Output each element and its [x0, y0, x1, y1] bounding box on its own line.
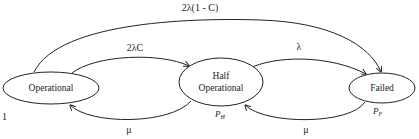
edge-failed-to-half [245, 102, 365, 120]
node-half-operational: Half Operational [179, 58, 263, 106]
edge-operational-to-half [72, 57, 189, 73]
edge-label-operational-failed: 2λ(1 - C) [182, 2, 219, 14]
prob-label-failed: PF [372, 106, 383, 117]
stray-mark: 1 [2, 111, 7, 122]
edge-label-half-operational: μ [126, 124, 131, 135]
edge-label-operational-half: 2λC [127, 42, 144, 53]
markov-state-diagram: Operational Half Operational Failed 2λ(1… [0, 0, 419, 139]
node-operational-label: Operational [29, 83, 74, 93]
node-failed-label: Failed [370, 83, 394, 93]
edge-half-to-operational [70, 101, 191, 120]
node-half-label-line1: Half [213, 71, 231, 81]
edge-label-failed-half: μ [303, 124, 308, 135]
node-half-label-line2: Operational [199, 83, 244, 93]
prob-label-half: PH [214, 109, 226, 120]
node-operational: Operational [3, 72, 99, 104]
edge-half-to-failed [248, 59, 366, 74]
node-failed: Failed [349, 73, 415, 103]
edge-label-half-failed: λ [297, 41, 302, 52]
